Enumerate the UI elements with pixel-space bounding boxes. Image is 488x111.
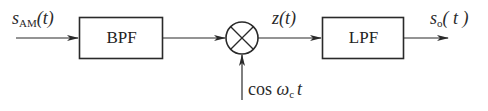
carrier-label: cos ωct [248,79,302,100]
multiplier-icon [226,22,258,54]
bpf-label: BPF [80,17,163,58]
output-signal-label: so( t ) [430,8,469,29]
input-signal-label: sAM(t) [12,8,54,29]
carrier-subscript: c [289,88,294,100]
output-symbol: s [430,8,437,28]
carrier-omega: ω [277,79,290,99]
intermediate-arg: (t) [279,8,296,28]
intermediate-symbol: z [272,8,279,28]
block-diagram-canvas [0,0,488,111]
output-arg: ( t ) [443,8,469,28]
lpf-label: LPF [323,17,404,58]
carrier-t: t [297,79,302,99]
carrier-prefix: cos [248,79,277,99]
intermediate-signal-label: z(t) [272,8,296,29]
input-symbol: s [12,8,19,28]
input-arg: (t) [37,8,54,28]
input-subscript: AM [19,17,37,29]
